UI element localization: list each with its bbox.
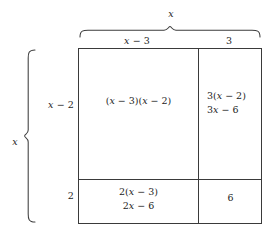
column-header-3: 3 (226, 35, 232, 47)
column-header-x-minus-3: x − 3 (124, 35, 150, 47)
row-label-x-minus-2: x − 2 (48, 99, 74, 111)
diagram-canvas: x x − 3 3 x x − 2 2 (x − 3)(x − 2) 3(x −… (0, 0, 276, 236)
cell-bottom-right: 6 (198, 191, 263, 205)
area-model-grid: (x − 3)(x − 2) 3(x − 2) 3x − 6 2(x − 3) … (78, 48, 262, 224)
cell-bottom-left-line-1: 2(x − 3) (79, 185, 198, 199)
cell-bottom-right-line-1: 6 (198, 191, 263, 205)
grid-horizontal-divider (79, 179, 261, 180)
cell-bottom-left-line-2: 2x − 6 (79, 199, 198, 213)
total-width-label: x (168, 8, 173, 20)
cell-top-right-line-2: 3x − 6 (207, 103, 263, 117)
top-width-brace-icon (78, 26, 262, 38)
cell-top-right-line-1: 3(x − 2) (207, 89, 263, 103)
left-height-brace-icon (24, 48, 36, 224)
cell-bottom-left: 2(x − 3) 2x − 6 (79, 185, 198, 212)
total-height-label: x (12, 136, 17, 148)
cell-top-left: (x − 3)(x − 2) (79, 94, 198, 108)
row-label-2: 2 (68, 190, 74, 202)
cell-top-left-line-1: (x − 3)(x − 2) (79, 94, 198, 108)
cell-top-right: 3(x − 2) 3x − 6 (207, 89, 263, 116)
